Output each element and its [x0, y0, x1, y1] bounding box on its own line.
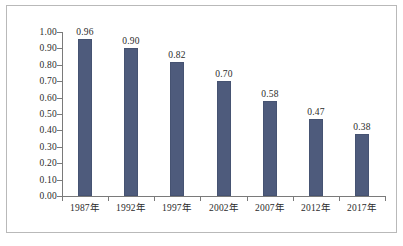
bar-1992: [124, 48, 138, 196]
x-axis-category-label: 2017年: [336, 202, 388, 214]
y-axis-tick-label: 0.90: [5, 43, 57, 53]
y-axis-tick-label: 0.70: [5, 76, 57, 86]
x-axis-tick: [108, 196, 109, 201]
x-axis-category-label: 2012年: [290, 202, 342, 214]
bar-2007: [263, 101, 277, 196]
y-axis-tick: [57, 147, 62, 148]
y-axis-tick: [57, 65, 62, 66]
bar-value-label: 0.47: [294, 107, 338, 118]
y-axis-tick-label: 1.00: [5, 27, 57, 37]
x-axis-tick: [154, 196, 155, 201]
x-axis-category-label: 1997年: [151, 202, 203, 214]
x-axis-line: [62, 196, 386, 197]
bar-value-label: 0.96: [63, 27, 107, 38]
y-axis-tick: [57, 81, 62, 82]
bar-value-label: 0.58: [248, 89, 292, 100]
bar-value-label: 0.82: [155, 50, 199, 61]
x-axis-category-label: 1987年: [59, 202, 111, 214]
y-axis-tick-label: 0.10: [5, 175, 57, 185]
bar-1987: [78, 39, 92, 196]
y-axis-tick-label: 0.60: [5, 93, 57, 103]
y-axis-tick-label: 0.40: [5, 125, 57, 135]
x-axis-category-label: 2007年: [244, 202, 296, 214]
x-axis-tick: [247, 196, 248, 201]
plot-area: 1.00 0.90 0.80 0.70 0.60 0.50 0.40 0.30 …: [0, 0, 403, 246]
y-axis-tick-label: 0.80: [5, 60, 57, 70]
y-axis-tick: [57, 163, 62, 164]
y-axis-tick: [57, 98, 62, 99]
bar-value-label: 0.70: [202, 69, 246, 80]
y-axis-tick: [57, 130, 62, 131]
x-axis-category-label: 1992年: [105, 202, 157, 214]
bar-2002: [217, 81, 231, 196]
x-axis-tick: [293, 196, 294, 201]
bar-2017: [355, 134, 369, 196]
x-axis-tick: [339, 196, 340, 201]
y-axis-tick-label: 0.20: [5, 158, 57, 168]
y-axis-tick-label: 0.00: [5, 191, 57, 201]
x-axis-tick: [62, 196, 63, 201]
chart-figure: 1.00 0.90 0.80 0.70 0.60 0.50 0.40 0.30 …: [0, 0, 403, 246]
bar-value-label: 0.38: [340, 122, 384, 133]
x-axis-tick: [385, 196, 386, 201]
y-axis-tick: [57, 114, 62, 115]
y-axis-tick: [57, 32, 62, 33]
y-axis-tick: [57, 180, 62, 181]
y-axis-tick-label: 0.50: [5, 109, 57, 119]
y-axis-line: [62, 32, 63, 196]
bar-1997: [170, 62, 184, 197]
bar-2012: [309, 119, 323, 196]
y-axis-tick-label: 0.30: [5, 142, 57, 152]
x-axis-tick: [200, 196, 201, 201]
y-axis-tick: [57, 48, 62, 49]
bar-value-label: 0.90: [109, 36, 153, 47]
x-axis-category-label: 2002年: [198, 202, 250, 214]
